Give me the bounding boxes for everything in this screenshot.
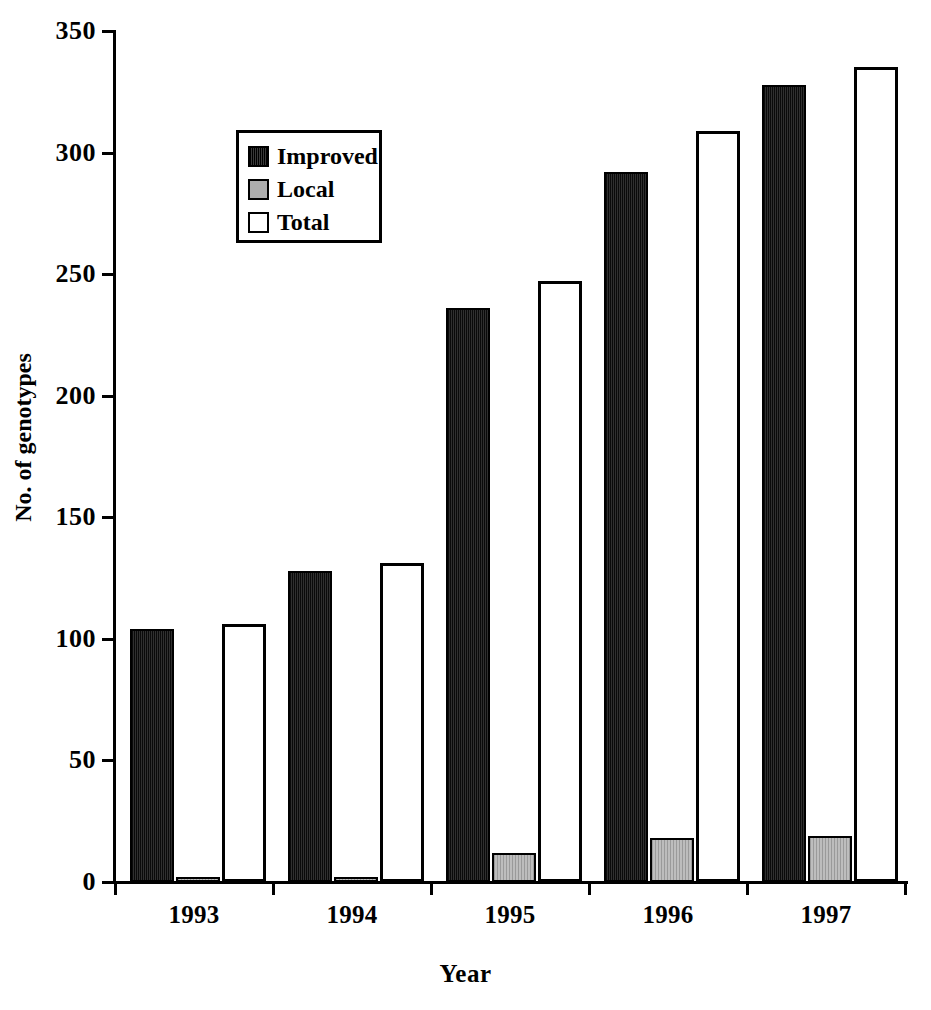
x-tick-label-1996: 1996	[589, 900, 747, 930]
x-tick-1	[272, 881, 275, 895]
y-tick-350	[102, 30, 115, 33]
legend-swatch-total-icon	[248, 212, 269, 233]
x-tick-4	[746, 881, 749, 895]
x-tick-label-1995: 1995	[431, 900, 589, 930]
y-tick-label-0: 0	[28, 869, 96, 895]
bar-1994-total	[380, 563, 424, 882]
y-tick-label-250: 250	[28, 261, 96, 287]
y-tick-label-300: 300	[28, 140, 96, 166]
y-tick-300	[102, 152, 115, 155]
bar-1996-total	[696, 131, 740, 882]
x-tick-5	[904, 881, 907, 895]
bar-1995-improved	[446, 308, 490, 882]
bar-1996-local	[650, 838, 694, 882]
y-tick-label-50: 50	[28, 747, 96, 773]
x-axis-title: Year	[0, 960, 931, 988]
y-tick-50	[102, 759, 115, 762]
legend-item-local: Local	[248, 173, 379, 205]
y-tick-label-100: 100	[28, 626, 96, 652]
x-tick-3	[588, 881, 591, 895]
y-tick-label-150: 150	[28, 504, 96, 530]
bar-1997-improved	[762, 85, 806, 883]
bar-1996-improved	[604, 172, 648, 882]
bar-1993-total	[222, 624, 266, 882]
y-tick-150	[102, 516, 115, 519]
x-tick-label-1993: 1993	[115, 900, 273, 930]
legend-swatch-local-icon	[248, 179, 269, 200]
x-tick-label-1994: 1994	[273, 900, 431, 930]
y-tick-100	[102, 638, 115, 641]
bar-1995-total	[538, 281, 582, 882]
legend-item-improved: Improved	[248, 140, 379, 172]
bar-1997-total	[854, 67, 898, 882]
x-tick-2	[430, 881, 433, 895]
x-tick-0	[114, 881, 117, 895]
legend-swatch-improved-icon	[248, 146, 269, 167]
bar-1994-improved	[288, 571, 332, 882]
bar-1994-local	[334, 877, 378, 882]
y-tick-250	[102, 273, 115, 276]
bar-1997-local	[808, 836, 852, 882]
bar-1993-local	[176, 877, 220, 882]
y-axis-title: No. of genotypes	[10, 273, 37, 603]
legend-label-total: Total	[277, 210, 329, 234]
legend-label-local: Local	[277, 177, 334, 201]
plot-area	[115, 31, 905, 882]
y-tick-label-200: 200	[28, 383, 96, 409]
bar-1993-improved	[130, 629, 174, 882]
y-tick-label-350: 350	[28, 18, 96, 44]
chart-legend: Improved Local Total	[236, 130, 382, 243]
legend-item-total: Total	[248, 206, 379, 238]
legend-label-improved: Improved	[277, 144, 378, 168]
bar-chart-figure: 050100150200250300350 199319941995199619…	[0, 0, 931, 1010]
x-tick-label-1997: 1997	[747, 900, 905, 930]
y-tick-200	[102, 395, 115, 398]
bar-1995-local	[492, 853, 536, 882]
